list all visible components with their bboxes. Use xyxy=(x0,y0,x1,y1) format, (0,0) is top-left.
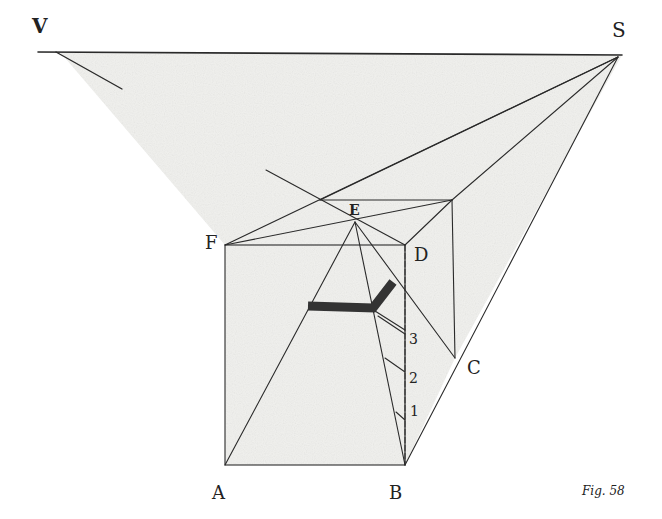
label-c: C xyxy=(467,357,481,378)
label-f: F xyxy=(205,232,218,253)
label-e: E xyxy=(349,202,360,218)
figure-drawing xyxy=(0,0,662,519)
label-v: V xyxy=(32,14,48,38)
figure-caption: Fig. 58 xyxy=(582,484,625,498)
label-b: B xyxy=(389,482,402,503)
label-d: D xyxy=(414,244,428,265)
label-a: A xyxy=(212,482,225,503)
label-3: 3 xyxy=(409,331,418,347)
label-1: 1 xyxy=(410,403,419,419)
label-s: S xyxy=(612,18,626,42)
label-2: 2 xyxy=(409,370,418,386)
shaded-area xyxy=(38,52,622,465)
perspective-figure: V S E F D C A B 3 2 1 Fig. 58 xyxy=(0,0,662,519)
